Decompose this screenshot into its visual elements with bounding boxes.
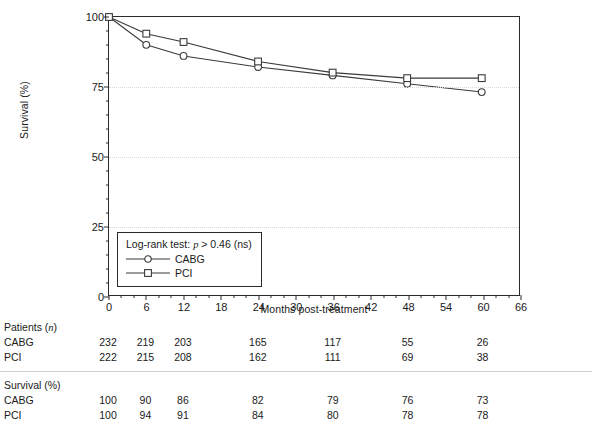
gridline-y-75 [109,87,519,88]
gridline-y-25 [109,227,519,228]
data-point-pci-12[interactable] [180,39,187,46]
data-point-cabg-60[interactable] [478,89,485,96]
table-row-cell: 79 [327,394,339,406]
x-major-tick [221,295,222,300]
table-row-cell: 165 [249,336,267,348]
data-point-pci-60[interactable] [478,75,485,82]
data-point-pci-6[interactable] [143,30,150,37]
y-major-tick [104,87,109,88]
data-point-cabg-12[interactable] [180,53,187,60]
table-section-heading: Survival (%) [0,379,596,394]
series-line-cabg [109,17,482,92]
y-minor-tick [106,129,109,130]
x-tick-label: 48 [403,301,415,313]
legend-statistic: Log-rank test: p > 0.46 (ns) [125,238,252,250]
table-row-cell: 117 [324,336,341,348]
x-minor-tick [308,295,309,298]
y-tick-label: 25 [92,221,104,233]
y-minor-tick [106,283,109,284]
table-row-cell: 38 [477,351,489,363]
table-row: PCI100949184807878 [0,409,596,424]
data-point-pci-24[interactable] [255,58,262,65]
x-minor-tick [196,295,197,298]
x-tick-label: 60 [477,301,489,313]
table-row-label: PCI [4,351,22,363]
x-major-tick [371,295,372,300]
y-minor-tick [106,59,109,60]
x-axis-title: Months post-treatment [108,303,520,315]
data-point-pci-36[interactable] [329,69,336,76]
x-minor-tick [433,295,434,298]
y-minor-tick [106,73,109,74]
legend-item-cabg[interactable]: CABG [125,252,252,266]
x-minor-tick [233,295,234,298]
y-major-tick [104,227,109,228]
x-minor-tick [421,295,422,298]
x-minor-tick [246,295,247,298]
x-tick-label: 12 [178,301,190,313]
table-row-cell: 86 [177,394,189,406]
x-minor-tick [171,295,172,298]
x-major-tick [408,295,409,300]
x-minor-tick [283,295,284,298]
table-row-cell: 73 [477,394,489,406]
table-row-cell: 76 [402,394,414,406]
plot-frame: Log-rank test: p > 0.46 (ns) CABG [108,16,520,296]
data-point-cabg-6[interactable] [143,41,150,48]
table-row-cell: 69 [402,351,414,363]
table-row-cell: 215 [137,351,155,363]
y-minor-tick [106,185,109,186]
y-minor-tick [106,143,109,144]
y-minor-tick [106,115,109,116]
table-row: CABG100908682797673 [0,394,596,409]
x-major-tick [521,295,522,300]
table-section-heading: Patients (n) [0,321,596,336]
x-minor-tick [496,295,497,298]
y-minor-tick [106,269,109,270]
y-minor-tick [106,101,109,102]
x-tick-label: 6 [143,301,149,313]
x-minor-tick [508,295,509,298]
x-major-tick [296,295,297,300]
x-minor-tick [158,295,159,298]
legend-item-pci[interactable]: PCI [125,266,252,280]
x-tick-label: 36 [328,301,340,313]
table-section-heading-label: Survival (%) [4,379,61,391]
y-minor-tick [106,255,109,256]
table-row: CABG2322192031651175526 [0,336,596,351]
legend-statistic-prefix: Log-rank test: [126,238,193,250]
legend-label-cabg: CABG [175,253,205,265]
x-minor-tick [383,295,384,298]
y-major-tick [104,17,109,18]
x-tick-label: 42 [365,301,377,313]
table-row-cell: 111 [325,351,341,363]
plot-inner: Log-rank test: p > 0.46 (ns) CABG [109,17,519,295]
x-minor-tick [458,295,459,298]
data-point-pci-48[interactable] [404,75,411,82]
y-minor-tick [106,199,109,200]
x-minor-tick [121,295,122,298]
table-row-cell: 208 [174,351,192,363]
table-section-divider [0,371,592,372]
x-tick-label: 54 [440,301,452,313]
table-row-label: CABG [4,394,34,406]
x-minor-tick [358,295,359,298]
x-minor-tick [321,295,322,298]
x-major-tick [483,295,484,300]
y-minor-tick [106,45,109,46]
table-row-cell: 219 [137,336,155,348]
y-minor-tick [106,213,109,214]
table-row-cell: 232 [99,336,117,348]
legend-statistic-suffix: > 0.46 (ns) [198,238,251,250]
table-row-cell: 82 [252,394,264,406]
table-row-cell: 100 [99,394,117,406]
x-major-tick [183,295,184,300]
x-tick-label: 0 [106,301,112,313]
table-section-heading-label: Patients (n) [4,321,57,333]
survival-figure: Survival (%) Months post-treatment Log-r… [0,0,596,441]
legend-label-pci: PCI [175,267,193,279]
x-major-tick [446,295,447,300]
x-minor-tick [133,295,134,298]
x-tick-label: 18 [215,301,227,313]
x-minor-tick [396,295,397,298]
